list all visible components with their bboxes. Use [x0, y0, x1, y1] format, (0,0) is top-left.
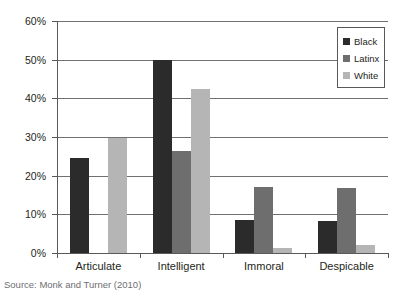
y-axis-tick-label: 20% [0, 170, 46, 182]
x-axis-tick-mark [57, 253, 58, 258]
y-axis-tick-label: 50% [0, 54, 46, 66]
bar-group [70, 21, 127, 253]
x-axis-tick-label: Articulate [57, 260, 140, 272]
x-axis-tick-label: Immoral [223, 260, 306, 272]
legend-swatch-white-icon [343, 72, 350, 79]
x-axis-tick-mark [140, 253, 141, 258]
bar [235, 220, 254, 253]
y-axis-tick-label: 40% [0, 92, 46, 104]
y-axis-tick-label: 60% [0, 15, 46, 27]
bar [191, 89, 210, 253]
bar [153, 60, 172, 253]
x-axis-tick-mark [388, 253, 389, 258]
bar-chart: 0%10%20%30%40%50%60% ArticulateIntellige… [0, 0, 406, 299]
bar [356, 245, 375, 253]
x-axis-tick-mark [305, 253, 306, 258]
y-axis-labels: 0%10%20%30%40%50%60% [0, 0, 57, 253]
bar [337, 188, 356, 253]
legend-swatch-black-icon [343, 38, 350, 45]
source-caption: Source: Monk and Turner (2010) [4, 279, 141, 290]
legend-item: Latinx [343, 50, 384, 67]
bar [254, 187, 273, 253]
y-axis-tick-label: 10% [0, 208, 46, 220]
legend-item: White [343, 67, 384, 84]
legend-label: White [354, 70, 378, 81]
bar [318, 221, 337, 253]
bar [108, 138, 127, 253]
bar [273, 248, 292, 253]
x-axis-tick-mark [223, 253, 224, 258]
legend-item: Black [343, 33, 384, 50]
legend-label: Black [354, 36, 377, 47]
legend: BlackLatinxWhite [337, 27, 385, 88]
y-axis-tick-label: 30% [0, 131, 46, 143]
bar [70, 158, 89, 254]
bar-group [235, 21, 292, 253]
bar [172, 151, 191, 253]
x-axis-tick-label: Intelligent [140, 260, 223, 272]
x-axis-tick-label: Despicable [305, 260, 388, 272]
legend-label: Latinx [354, 53, 379, 64]
bar-group [153, 21, 210, 253]
legend-swatch-latinx-icon [343, 55, 350, 62]
y-axis-tick-label: 0% [0, 247, 46, 259]
